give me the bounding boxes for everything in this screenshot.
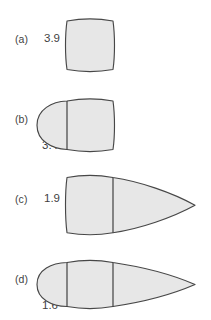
panel-c: (c) 1.9 <box>0 160 211 240</box>
panel-d-shape <box>0 240 211 320</box>
panel-c-shape <box>0 160 211 240</box>
streamlined-teardrop-shape <box>37 261 195 309</box>
panel-a: (a) 3.9 <box>0 0 211 80</box>
panel-d: (d) 1.6 <box>0 240 211 320</box>
panel-a-shape <box>0 0 211 80</box>
figure-root: (a) 3.9 (b) 3.4 (c) 1.9 (d) 1.6 <box>0 0 211 320</box>
panel-b-shape <box>0 80 211 160</box>
blunt-nose-tapered-tail-shape <box>66 176 196 235</box>
rounded-nose-blunt-tail-shape <box>37 99 115 151</box>
panel-b: (b) 3.4 <box>0 80 211 160</box>
blunt-body-shape <box>66 19 115 71</box>
